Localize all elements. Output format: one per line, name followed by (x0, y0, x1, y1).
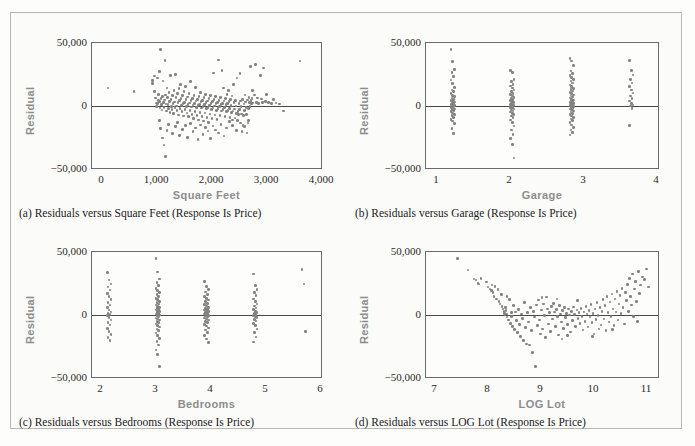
data-point (556, 298, 559, 301)
xtick-a-0: 0 (71, 173, 131, 185)
panel-b: 50,000 0 −50,000 Residual 1 2 3 4 Garage… (347, 13, 683, 221)
data-point (231, 119, 234, 122)
data-point (634, 280, 637, 283)
xtick-d-1: 8 (457, 382, 517, 394)
data-point (630, 304, 633, 307)
data-point (235, 129, 238, 132)
data-point (249, 105, 252, 108)
data-point (172, 112, 175, 115)
xtick-d-0: 7 (404, 382, 464, 394)
data-point (168, 91, 171, 94)
plot-area-a (91, 42, 322, 169)
data-point (181, 94, 184, 97)
data-point (226, 93, 229, 96)
data-point (163, 99, 166, 102)
data-point (467, 269, 470, 272)
data-point (260, 98, 263, 101)
data-point (552, 302, 555, 305)
data-point (206, 100, 209, 103)
data-point (230, 104, 233, 107)
data-point (173, 101, 176, 104)
data-point (511, 121, 514, 124)
data-point (605, 329, 608, 332)
data-point (218, 105, 221, 108)
data-point (545, 296, 548, 299)
ytick-a-0: 50,000 (31, 36, 87, 48)
data-point (303, 283, 306, 286)
data-point (253, 94, 256, 97)
data-point (241, 130, 244, 133)
data-point (252, 341, 255, 344)
data-point (224, 97, 227, 100)
data-point (528, 344, 531, 347)
data-point (516, 331, 519, 334)
data-point (157, 295, 160, 298)
data-point (223, 135, 226, 138)
data-point (278, 103, 281, 106)
data-point (220, 123, 223, 126)
data-point (255, 336, 258, 339)
data-point (631, 97, 634, 100)
data-point (568, 314, 571, 317)
data-point (216, 101, 219, 104)
data-point (569, 134, 572, 137)
data-point (214, 95, 217, 98)
data-point (635, 300, 638, 303)
data-point (228, 107, 231, 110)
data-point (452, 75, 455, 78)
data-point (518, 323, 521, 326)
ytick-c-0: 50,000 (31, 245, 87, 257)
data-point (234, 99, 237, 102)
data-point (600, 324, 603, 327)
data-point (232, 83, 235, 86)
data-point (203, 103, 206, 106)
data-point (571, 72, 574, 75)
panel-c: 50,000 0 −50,000 Residual 2 3 4 5 6 Bedr… (11, 221, 347, 430)
data-point (164, 155, 167, 158)
data-point (189, 109, 192, 112)
figure-page: 50,000 0 −50,000 Residual 0 1,000 2,000 … (0, 0, 695, 446)
data-point (538, 319, 541, 322)
ytick-d-0: 50,000 (365, 245, 421, 257)
data-point (450, 48, 453, 51)
data-point (164, 59, 167, 62)
data-point (223, 106, 226, 109)
data-point (155, 349, 158, 352)
panel-a: 50,000 0 −50,000 Residual 0 1,000 2,000 … (11, 13, 347, 221)
data-point (196, 98, 199, 101)
data-point (534, 365, 537, 368)
data-point (541, 296, 544, 299)
xtick-a-2: 2,000 (181, 173, 241, 185)
data-point (505, 309, 508, 312)
data-point (627, 310, 630, 313)
data-point (110, 298, 113, 301)
data-point (592, 312, 595, 315)
data-point (638, 292, 641, 295)
data-point (178, 99, 181, 102)
data-point (520, 313, 523, 316)
data-point (156, 340, 159, 343)
data-point (551, 318, 554, 321)
data-point (549, 330, 552, 333)
data-point (272, 98, 275, 101)
xtick-d-4: 11 (616, 382, 676, 394)
data-point (192, 117, 195, 120)
data-point (207, 299, 210, 302)
xtick-c-2: 4 (180, 382, 240, 394)
data-point (628, 277, 631, 280)
data-point (556, 315, 559, 318)
axis-label-x-b: Garage (425, 189, 659, 201)
data-point (212, 107, 215, 110)
data-point (256, 97, 259, 100)
zero-reference-line-b (426, 106, 658, 107)
data-point (206, 116, 209, 119)
data-point (204, 112, 207, 115)
data-point (174, 73, 177, 76)
data-point (231, 124, 234, 127)
data-point (591, 335, 594, 338)
data-point (569, 331, 572, 334)
data-point (572, 126, 575, 129)
data-point (631, 273, 634, 276)
data-point (243, 109, 246, 112)
data-point (244, 101, 247, 104)
